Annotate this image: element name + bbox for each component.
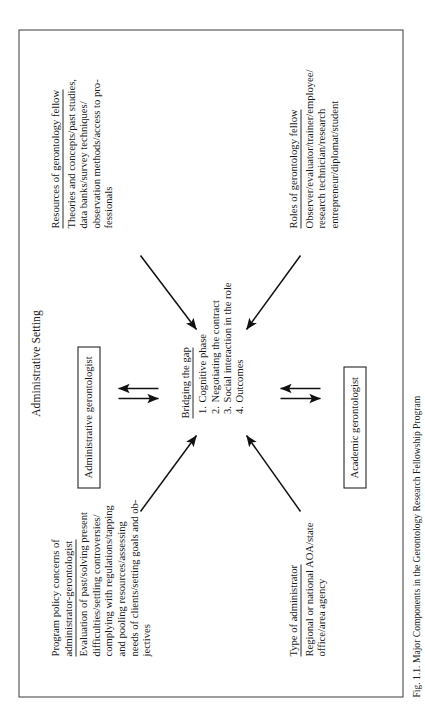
body-type-of-administrator: Regional or national AOA/state office/ar… <box>303 488 328 656</box>
text-block-roles-of-gerontology-fellow: Roles of gerontology fellow Observer/eva… <box>287 38 340 228</box>
node-box-academic-gerontologist: Academic gerontologist <box>343 367 366 489</box>
heading-program-policy-concerns: Program policy concerns of administrator… <box>49 539 76 656</box>
text-block-type-of-administrator: Type of administrator Regional or nation… <box>287 488 328 656</box>
figure-stage: Administrative Setting Program policy co… <box>0 0 425 725</box>
list-item: Social interaction in the role <box>221 266 233 403</box>
heading-resources-of-gerontology-fellow: Resources of gerontology fellow <box>49 89 63 228</box>
list-item: Negotiating the contract <box>209 266 221 403</box>
text-block-program-policy-concerns: Program policy concerns of administrator… <box>49 486 153 656</box>
body-roles-of-gerontology-fellow: Observer/evaluator/trainer/employee/ res… <box>303 38 341 228</box>
text-block-bridging-the-gap: Bridging the gap Cognitive phase Negotia… <box>179 266 246 418</box>
heading-roles-of-gerontology-fellow: Roles of gerontology fellow <box>287 109 301 228</box>
figure-caption: Fig. 1.1. Major Components in the Geront… <box>410 27 421 697</box>
heading-type-of-administrator: Type of administrator <box>287 564 301 656</box>
list-item: Outcomes <box>233 266 245 403</box>
list-item: Cognitive phase <box>196 266 208 403</box>
heading-bridging-the-gap: Bridging the gap <box>179 347 193 418</box>
bridging-the-gap-list: Cognitive phase Negotiating the contract… <box>196 266 246 418</box>
node-box-administrative-gerontologist: Administrative gerontologist <box>77 346 100 488</box>
text-block-resources-of-gerontology-fellow: Resources of gerontology fellow Theories… <box>49 38 115 228</box>
figure-title: Administrative Setting <box>29 30 41 696</box>
figure-border: Administrative Setting Program policy co… <box>18 29 403 697</box>
body-resources-of-gerontology-fellow: Theories and concepts/past studies, data… <box>65 38 115 228</box>
body-program-policy-concerns: Evaluation of past/solving present diffi… <box>77 486 153 656</box>
